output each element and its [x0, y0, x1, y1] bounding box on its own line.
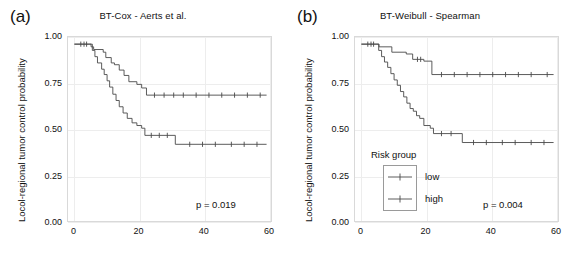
panel-a-km-curves: [68, 37, 273, 223]
panel-b-plot-area: Risk group low high: [354, 36, 559, 222]
y-tick-label: 0.75: [317, 78, 349, 88]
panel-a: (a) BT-Cox - Aerts et al. 1.00 0.75 0.50…: [0, 0, 286, 266]
panel-b-title: BT-Weibull - Spearman: [287, 10, 573, 21]
panel-a-title: BT-Cox - Aerts et al.: [0, 10, 286, 21]
x-tick-label: 60: [254, 226, 284, 236]
x-tick-label: 0: [58, 226, 88, 236]
x-tick-label: 40: [476, 226, 506, 236]
y-tick-label: 0.50: [317, 124, 349, 134]
legend-title: Risk group: [371, 149, 416, 160]
panel-a-y-axis-title: Locol-regional tumor control probability: [16, 58, 27, 222]
figure-root: (a) BT-Cox - Aerts et al. 1.00 0.75 0.50…: [0, 0, 573, 266]
y-tick-label: 1.00: [317, 31, 349, 41]
panel-b-y-axis-title: Locol-regional tumor control probability: [303, 58, 314, 222]
legend-key-lines: [383, 165, 417, 211]
panel-a-x-tick-labels: 0 20 40 60: [67, 226, 272, 242]
panel-b-y-tick-labels: 1.00 0.75 0.50 0.25 0.00: [315, 36, 349, 222]
x-tick-label: 60: [541, 226, 571, 236]
x-tick-label: 20: [411, 226, 441, 236]
panel-a-plot-area: [67, 36, 272, 222]
panel-b-x-tick-labels: 0 20 40 60: [354, 226, 559, 242]
panel-a-pvalue: p = 0.019: [196, 199, 236, 210]
y-tick-label: 0.50: [30, 124, 62, 134]
x-tick-label: 40: [189, 226, 219, 236]
legend-item-high[interactable]: high: [425, 193, 443, 204]
y-tick-label: 0.25: [317, 171, 349, 181]
km-step-line: [361, 44, 553, 74]
y-tick-label: 0.75: [30, 78, 62, 88]
panel-b-pvalue: p = 0.004: [483, 199, 523, 210]
panel-b: (b) BT-Weibull - Spearman 1.00 0.75 0.50…: [287, 0, 573, 266]
km-step-line: [361, 44, 553, 142]
y-tick-label: 0.00: [317, 217, 349, 227]
x-tick-label: 0: [345, 226, 375, 236]
y-tick-label: 0.25: [30, 171, 62, 181]
x-tick-label: 20: [124, 226, 154, 236]
y-tick-label: 0.00: [30, 217, 62, 227]
panel-a-y-tick-labels: 1.00 0.75 0.50 0.25 0.00: [28, 36, 62, 222]
legend-item-low[interactable]: low: [425, 171, 439, 182]
y-tick-label: 1.00: [30, 31, 62, 41]
km-step-line: [74, 44, 266, 144]
